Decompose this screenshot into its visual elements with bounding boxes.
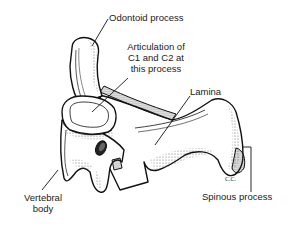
- label-articulation: Articulation of C1 and C2 at this proces…: [118, 41, 194, 74]
- label-vertebral-body-line2: body: [18, 203, 68, 214]
- label-vertebral-body: Vertebral body: [18, 192, 68, 214]
- label-articulation-line3: this process: [118, 63, 194, 74]
- label-articulation-line1: Articulation of: [118, 41, 194, 52]
- label-lamina: Lamina: [190, 86, 221, 97]
- label-articulation-line2: C1 and C2 at: [118, 52, 194, 63]
- artist-signature: C.C.: [225, 176, 236, 183]
- vertebral-body-leader: [42, 170, 58, 190]
- odontoid-leader: [92, 19, 108, 46]
- diagram-canvas: Odontoid process Articulation of C1 and …: [0, 0, 292, 227]
- label-spinous-process: Spinous process: [202, 191, 272, 202]
- label-odontoid-process: Odontoid process: [109, 12, 183, 23]
- lamina-shape: [100, 95, 245, 190]
- odontoid-shape: [70, 37, 102, 104]
- label-vertebral-body-line1: Vertebral: [18, 192, 68, 203]
